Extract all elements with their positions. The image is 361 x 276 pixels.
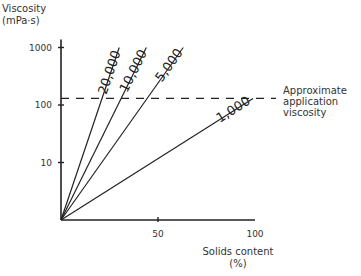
series-label-5000: 5,000 (152, 46, 186, 85)
y-axis-title: Viscosity (2, 3, 46, 14)
ref-label-line-1: Approximate (283, 85, 347, 96)
y-tick-label: 1000 (29, 43, 52, 53)
y-tick-label: 10 (41, 158, 53, 168)
x-tick-label: 100 (246, 229, 263, 239)
x-axis-units: (%) (229, 258, 246, 269)
ref-label-line-3: viscosity (283, 107, 326, 118)
y-tick-label: 100 (35, 100, 52, 110)
x-tick-label: 50 (152, 229, 164, 239)
viscosity-chart: Viscosity (mPa·s) 101001000 50100 20,000… (0, 0, 361, 276)
y-axis-units: (mPa·s) (2, 15, 40, 26)
x-axis-title: Solids content (202, 246, 273, 257)
ref-label-line-2: application (283, 96, 338, 107)
